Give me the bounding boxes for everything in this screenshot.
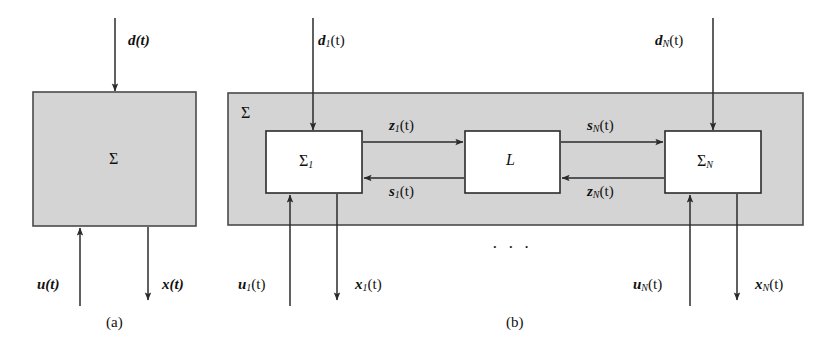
panel-b-x1-label: x1(t) xyxy=(355,277,382,293)
panel-b-caption: (b) xyxy=(506,315,524,330)
signal-tail: (t) xyxy=(600,117,614,133)
block-label-base: Σ xyxy=(299,152,308,169)
panel-b-subsystem-1-label: Σ1 xyxy=(299,153,313,170)
panel-b-xn-label: xN(t) xyxy=(755,277,783,293)
signal-base-u: u(t) xyxy=(37,276,60,292)
panel-b-sn-label: sN(t) xyxy=(587,118,614,134)
panel-a-input-label: u(t) xyxy=(37,277,60,292)
panel-b-dn-label: dN(t) xyxy=(655,33,683,49)
signal-base-x: x(t) xyxy=(162,276,184,292)
signal-sub: N xyxy=(593,189,600,200)
signal-base-d: d(t) xyxy=(128,32,150,48)
signal-sub: N xyxy=(641,282,648,293)
figure-root: Σ d(t) u(t) x(t) (a) Σ Σ1 L ΣN d1(t) dN(… xyxy=(0,0,830,353)
block-label-base: Σ xyxy=(697,152,706,169)
panel-b-subsystem-n-label: ΣN xyxy=(697,153,713,170)
panel-b-s1-label: s1(t) xyxy=(389,184,414,200)
signal-base-x: x xyxy=(355,276,363,292)
signal-tail: (t) xyxy=(769,276,783,292)
signal-tail: (t) xyxy=(368,276,382,292)
panel-b-un-label: uN(t) xyxy=(633,277,662,293)
signal-tail: (t) xyxy=(251,276,265,292)
signal-base-d: d xyxy=(655,32,663,48)
signal-base-x: x xyxy=(755,276,763,292)
panel-b-z1-label: z1(t) xyxy=(389,118,414,134)
signal-tail: (t) xyxy=(648,276,662,292)
diagram-canvas xyxy=(0,0,830,353)
signal-tail: (t) xyxy=(400,117,414,133)
panel-b-interconnection-label: L xyxy=(506,152,515,168)
panel-a-sigma-label: Σ xyxy=(109,151,118,167)
panel-b-sigma-label: Σ xyxy=(241,105,250,121)
panel-b-ellipsis: · · · xyxy=(492,238,532,258)
panel-b-group xyxy=(228,18,803,306)
signal-tail: (t) xyxy=(600,183,614,199)
panel-b-zn-label: zN(t) xyxy=(587,184,614,200)
signal-sub: N xyxy=(593,123,600,134)
panel-a-caption: (a) xyxy=(106,315,123,330)
panel-b-d1-label: d1(t) xyxy=(318,33,345,49)
signal-tail: (t) xyxy=(400,183,414,199)
block-label-sub: 1 xyxy=(308,159,313,170)
panel-a-state-label: x(t) xyxy=(162,277,184,292)
signal-tail: (t) xyxy=(669,32,683,48)
signal-base-d: d xyxy=(318,32,326,48)
panel-b-u1-label: u1(t) xyxy=(238,277,266,293)
panel-b-subsystem-1-block xyxy=(266,131,362,193)
block-label-base: L xyxy=(506,151,515,168)
block-label-sub: N xyxy=(706,159,713,170)
signal-tail: (t) xyxy=(331,32,345,48)
panel-b-subsystem-n-block xyxy=(665,131,761,193)
panel-a-disturbance-label: d(t) xyxy=(128,33,150,48)
